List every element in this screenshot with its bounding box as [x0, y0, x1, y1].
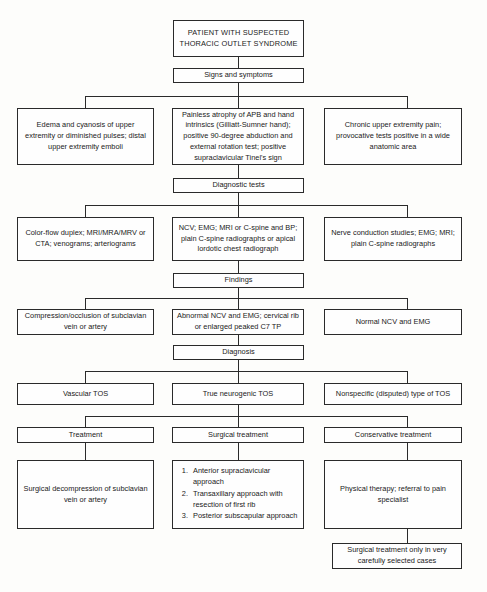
- node-tests-neurogenic: NCV; EMG; MRI or C-spine and BP; plain C…: [172, 217, 304, 261]
- node-diagnosis-nonspecific-text: Nonspecific (disputed) type of TOS: [336, 389, 450, 400]
- node-diagnosis-vascular: Vascular TOS: [17, 383, 154, 405]
- connector-signs-branch-bar: [85, 96, 407, 97]
- connector-treatment-vascular-down: [85, 443, 86, 460]
- node-diagnosis-label-text: Diagnosis: [222, 347, 254, 358]
- node-diagnosis-label: Diagnosis: [173, 345, 304, 360]
- node-root: PATIENT WITH SUSPECTED THORACIC OUTLET S…: [173, 20, 304, 57]
- connector-tests-to-findings: [238, 261, 239, 273]
- node-treatment-nonspecific-detail-text: Physical therapy; referral to pain speci…: [328, 484, 458, 505]
- node-treatment-nonspecific-footnote-text: Surgical treatment only in very carefull…: [336, 545, 458, 566]
- node-treatment-neurogenic-label-text: Surgical treatment: [208, 430, 268, 441]
- node-findings-label: Findings: [173, 273, 304, 288]
- node-surgical-approaches: Anterior supraclavicular approach Transa…: [172, 460, 304, 529]
- node-treatment-neurogenic-label: Surgical treatment: [172, 427, 304, 443]
- node-treatment-nonspecific-label-text: Conservative treatment: [355, 430, 431, 441]
- node-treatment-vascular-label: Treatment: [17, 427, 154, 443]
- connector-tests-branch-center: [238, 205, 239, 217]
- list-item: Anterior supraclavicular approach: [190, 465, 298, 487]
- node-treatment-nonspecific-detail: Physical therapy; referral to pain speci…: [324, 460, 462, 529]
- node-diagnosis-neurogenic-text: True neurogenic TOS: [203, 389, 274, 400]
- node-signs-nonspecific: Chronic upper extremity pain; provocativ…: [324, 108, 462, 165]
- node-signs-vascular: Edema and cyanosis of upper extremity or…: [17, 108, 154, 165]
- node-tests-label: Diagnostic tests: [173, 178, 304, 193]
- node-diagnosis-nonspecific: Nonspecific (disputed) type of TOS: [324, 383, 462, 405]
- node-treatment-vascular-label-text: Treatment: [69, 430, 102, 441]
- node-root-label: PATIENT WITH SUSPECTED THORACIC OUTLET S…: [177, 28, 300, 49]
- node-tests-nonspecific: Nerve conduction studies; EMG; MRI; plai…: [324, 217, 462, 261]
- connector-diagnosis-branch-right: [407, 371, 408, 383]
- node-tests-nonspecific-text: Nerve conduction studies; EMG; MRI; plai…: [328, 228, 458, 249]
- connector-diagnosis-to-treatment: [238, 405, 239, 416]
- node-signs-label: Signs and symptoms: [173, 68, 304, 83]
- node-signs-neurogenic: Painless atrophy of APB and hand intrins…: [172, 108, 304, 165]
- connector-findings-branch-bar: [85, 298, 407, 299]
- connector-diagnosis-branch-center: [238, 371, 239, 383]
- node-treatment-vascular-detail-text: Surgical decompression of subclavian vei…: [21, 484, 150, 505]
- connector-signs-down: [238, 83, 239, 96]
- node-diagnosis-neurogenic: True neurogenic TOS: [172, 383, 304, 405]
- connector-signs-branch-right: [407, 96, 408, 108]
- connector-treatment-neurogenic-down: [238, 443, 239, 460]
- connector-tests-branch-bar: [85, 205, 407, 206]
- connector-treatment-nonspecific-down: [407, 443, 408, 460]
- connector-diagnosis-branch-bar: [85, 371, 407, 372]
- connector-findings-down: [238, 288, 239, 298]
- connector-signs-branch-left: [85, 96, 86, 108]
- node-findings-nonspecific: Normal NCV and EMG: [324, 309, 462, 335]
- list-item: Transaxillary approach with resection of…: [190, 488, 298, 510]
- connector-tests-branch-left: [85, 205, 86, 217]
- connector-treatment-branch-bar: [85, 416, 407, 417]
- node-tests-label-text: Diagnostic tests: [212, 180, 264, 191]
- connector-treatment-branch-right: [407, 416, 408, 427]
- connector-treatment-branch-center: [238, 416, 239, 427]
- connector-signs-branch-center: [238, 96, 239, 108]
- connector-findings-to-diagnosis: [238, 335, 239, 345]
- node-diagnosis-vascular-text: Vascular TOS: [63, 389, 108, 400]
- node-signs-label-text: Signs and symptoms: [204, 70, 273, 81]
- node-signs-nonspecific-text: Chronic upper extremity pain; provocativ…: [328, 120, 458, 152]
- surgical-approaches-list: Anterior supraclavicular approach Transa…: [178, 465, 298, 522]
- node-findings-vascular: Compression/occlusion of subclavian vein…: [17, 309, 154, 335]
- connector-nonspecific-detail-to-footnote: [407, 529, 408, 543]
- connector-findings-branch-right: [407, 298, 408, 309]
- connector-diagnosis-down: [238, 360, 239, 371]
- node-signs-vascular-text: Edema and cyanosis of upper extremity or…: [21, 120, 150, 152]
- node-treatment-nonspecific-footnote: Surgical treatment only in very carefull…: [332, 543, 462, 569]
- node-tests-neurogenic-text: NCV; EMG; MRI or C-spine and BP; plain C…: [176, 223, 300, 255]
- connector-findings-branch-center: [238, 298, 239, 309]
- connector-signs-to-tests: [238, 165, 239, 178]
- connector-root-to-signs: [238, 57, 239, 68]
- node-findings-label-text: Findings: [225, 275, 253, 286]
- node-tests-vascular: Color-flow duplex; MRI/MRA/MRV or CTA; v…: [17, 217, 154, 261]
- node-findings-neurogenic-text: Abnormal NCV and EMG; cervical rib or en…: [176, 311, 300, 332]
- flowchart-canvas: PATIENT WITH SUSPECTED THORACIC OUTLET S…: [0, 0, 487, 592]
- node-findings-nonspecific-text: Normal NCV and EMG: [356, 317, 431, 328]
- node-treatment-nonspecific-label: Conservative treatment: [324, 427, 462, 443]
- connector-tests-branch-right: [407, 205, 408, 217]
- connector-diagnosis-branch-left: [85, 371, 86, 383]
- node-treatment-vascular-detail: Surgical decompression of subclavian vei…: [17, 460, 154, 529]
- node-findings-vascular-text: Compression/occlusion of subclavian vein…: [21, 311, 150, 332]
- connector-tests-down: [238, 193, 239, 205]
- list-item: Posterior subscapular approach: [190, 510, 298, 521]
- node-findings-neurogenic: Abnormal NCV and EMG; cervical rib or en…: [172, 309, 304, 335]
- node-tests-vascular-text: Color-flow duplex; MRI/MRA/MRV or CTA; v…: [21, 228, 150, 249]
- connector-treatment-branch-left: [85, 416, 86, 427]
- node-signs-neurogenic-text: Painless atrophy of APB and hand intrins…: [176, 110, 300, 164]
- connector-findings-branch-left: [85, 298, 86, 309]
